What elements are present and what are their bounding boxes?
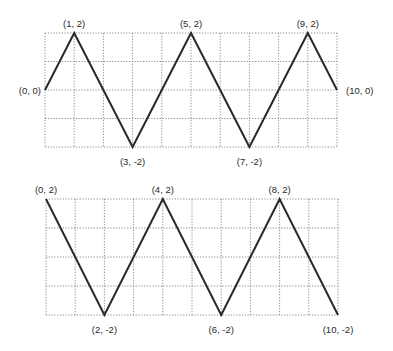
point-label: (8, 2) [269,184,291,195]
point-label: (10, 0) [346,85,373,96]
point-label: (0, 2) [35,184,57,195]
point-label: (2, -2) [92,324,117,335]
bottom-triangle-wave-plot: (0, 2)(2, -2)(4, 2)(6, -2)(8, 2)(10, -2) [35,184,353,335]
point-label: (5, 2) [180,18,202,29]
top-plot-grid [45,33,337,147]
point-label: (3, -2) [120,156,145,167]
top-triangle-wave-plot: (0, 0)(1, 2)(3, -2)(5, 2)(7, -2)(9, 2)(1… [19,18,374,167]
point-label: (9, 2) [297,18,319,29]
point-label: (1, 2) [63,18,85,29]
top-plot-point-labels: (0, 0)(1, 2)(3, -2)(5, 2)(7, -2)(9, 2)(1… [19,18,374,167]
point-label: (4, 2) [152,184,174,195]
point-label: (10, -2) [323,324,354,335]
point-label: (0, 0) [19,85,41,96]
point-label: (7, -2) [237,156,262,167]
point-label: (6, -2) [209,324,234,335]
figure-canvas: (0, 0)(1, 2)(3, -2)(5, 2)(7, -2)(9, 2)(1… [0,0,393,351]
